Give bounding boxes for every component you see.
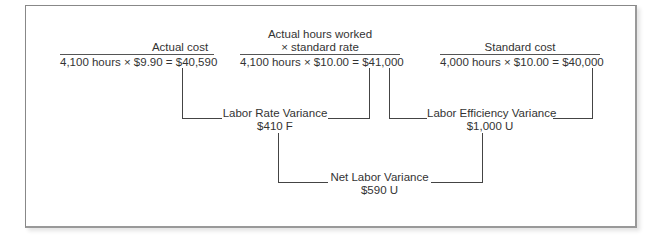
standard-cost-title: Standard cost [485,41,556,53]
rate-variance-label: Labor Rate Variance [222,107,328,120]
efficiency-variance: Labor Efficiency Variance $1,000 U [427,107,553,133]
connector [182,118,222,119]
connector [389,118,427,119]
net-variance: Net Labor Variance $590 U [328,171,431,197]
actual-hours-title-line1: Actual hours worked [240,28,400,41]
connector [278,133,279,183]
rate-variance: Labor Rate Variance $410 F [222,107,328,133]
actual-hours-formula: 4,100 hours × $10.00 = $41,000 [240,56,400,69]
net-variance-label: Net Labor Variance [328,171,431,184]
actual-hours-title-line2: × standard rate [240,41,400,54]
connector [389,68,390,119]
actual-hours-header: Actual hours worked × standard rate [240,28,400,54]
connector [182,68,183,119]
connector [278,182,328,183]
connector [369,68,370,119]
standard-cost-formula: 4,000 hours × $10.00 = $40,000 [440,56,600,69]
connector [482,133,483,183]
connector [431,182,483,183]
actual-hours-rule [240,54,400,55]
efficiency-variance-label: Labor Efficiency Variance [427,107,553,120]
net-variance-value: $590 U [328,184,431,197]
actual-cost-formula: 4,100 hours × $9.90 = $40,590 [60,56,214,69]
connector [553,118,593,119]
connector [328,118,370,119]
standard-cost-header: Standard cost [440,41,600,54]
efficiency-variance-value: $1,000 U [427,120,553,133]
connector [592,68,593,119]
standard-cost-rule [440,54,600,55]
actual-cost-rule [60,54,214,55]
rate-variance-value: $410 F [222,120,328,133]
actual-cost-title: Actual cost [152,41,208,53]
